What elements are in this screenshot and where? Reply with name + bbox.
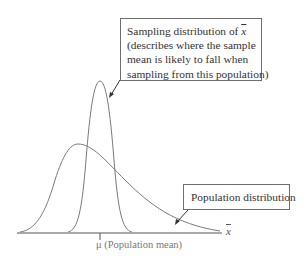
xbar-symbol: x — [241, 25, 246, 37]
x-axis-label: x — [226, 225, 231, 237]
mu-label: μ (Population mean) — [96, 239, 182, 250]
sampling-line-3: mean is likely to fall when — [127, 52, 261, 66]
population-arrow — [177, 210, 188, 222]
sampling-curve — [68, 81, 132, 232]
sampling-arrow — [111, 80, 120, 95]
sampling-arrowhead-icon — [109, 92, 114, 98]
sampling-line-4: sampling from this population) — [127, 67, 261, 81]
sampling-line-2: (describes where the sample — [127, 38, 261, 52]
population-distribution-callout: Population distribution — [183, 184, 290, 210]
sampling-distribution-callout: Sampling distribution of x (describes wh… — [120, 18, 262, 81]
sampling-line-1: Sampling distribution of x — [127, 24, 261, 38]
population-label: Population distribution — [191, 191, 296, 203]
